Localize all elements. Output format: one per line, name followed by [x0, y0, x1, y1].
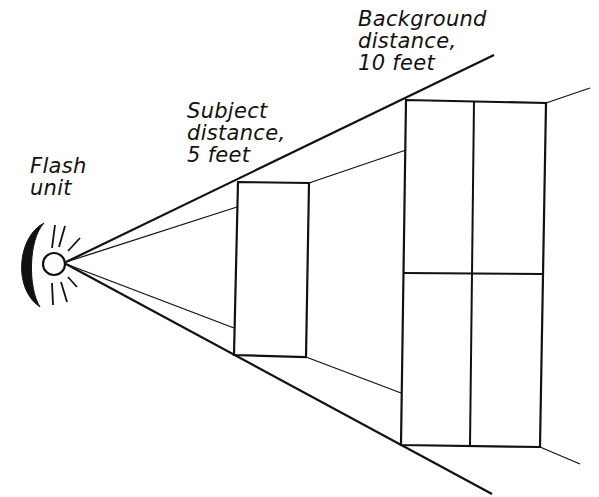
subject-label-line2: distance,: [187, 122, 285, 144]
beyond-bg-top-line: [546, 88, 590, 103]
flash-bulb: [43, 253, 65, 275]
inner-ray-bottom: [66, 264, 234, 328]
beyond-bg-bottom-line: [540, 447, 580, 464]
flash-label-line1: Flash: [30, 155, 87, 177]
flash-reflector: [22, 223, 44, 307]
subject-distance-label: Subject distance, 5 feet: [187, 100, 285, 166]
subject-bg-bottom-line: [306, 357, 401, 393]
subject-label-line3: 5 feet: [187, 144, 285, 166]
flash-unit-label: Flash unit: [30, 155, 87, 199]
subject-label-line1: Subject: [187, 100, 285, 122]
cone-bottom-line: [66, 264, 492, 494]
background-label-line3: 10 feet: [358, 52, 487, 74]
flash-unit-icon: [22, 223, 80, 307]
inner-ray-top: [66, 207, 237, 262]
background-distance-label: Background distance, 10 feet: [358, 8, 487, 74]
background-horizontal-divider: [404, 273, 543, 274]
subject-bg-top-line: [309, 150, 406, 183]
flash-distance-diagram: Flash unit Subject distance, 5 feet Back…: [0, 0, 599, 497]
background-label-line2: distance,: [358, 30, 487, 52]
background-label-line1: Background: [358, 8, 487, 30]
flash-label-line2: unit: [30, 177, 87, 199]
diagram-drawing: [0, 0, 599, 497]
subject-rectangle: [234, 182, 309, 357]
